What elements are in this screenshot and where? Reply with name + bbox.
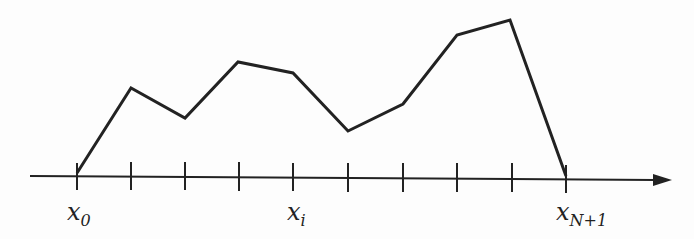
function-graph: [77, 20, 566, 176]
label-x0: x0: [67, 200, 91, 224]
x-axis: [30, 176, 655, 180]
diagram-canvas: x0 xi xN+1: [0, 0, 694, 239]
label-xN1: xN+1: [556, 200, 607, 224]
axis-arrow-icon: [653, 174, 672, 186]
label-xi: xi: [287, 200, 306, 224]
